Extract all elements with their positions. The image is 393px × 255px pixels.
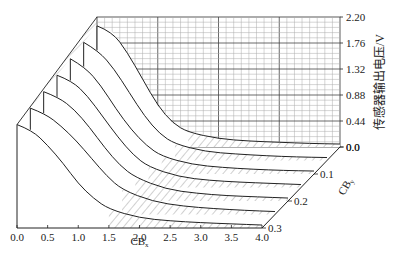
x-tick-label: 3.5: [225, 231, 239, 243]
chart-canvas: 0.00.51.01.52.02.53.03.54.0CBx0.00.440.8…: [0, 0, 393, 255]
waterfall-chart: 0.00.51.01.52.02.53.03.54.0CBx0.00.440.8…: [0, 0, 393, 255]
x-tick-label: 1.0: [71, 231, 85, 243]
x-tick-label: 0.5: [41, 231, 55, 243]
y-tick-label: 0.3: [268, 222, 282, 234]
y-tick-label: 0.1: [320, 168, 334, 180]
y-tick-label: 0.0: [346, 141, 360, 153]
x-tick-label: 1.5: [102, 231, 116, 243]
x-tick-label: 3.0: [194, 231, 208, 243]
z-tick-label: 1.32: [346, 63, 365, 75]
z-tick-label: 1.76: [346, 37, 366, 49]
y-axis-label: CBy: [335, 175, 356, 198]
y-tick-label: 0.2: [294, 195, 308, 207]
x-tick-label: 0.0: [10, 231, 24, 243]
z-tick-label: 0.44: [346, 115, 366, 127]
x-tick-label: 2.5: [163, 231, 177, 243]
z-tick-label: 0.88: [346, 89, 366, 101]
z-tick-label: 2.20: [346, 11, 366, 23]
z-axis-label: 传感器输出电压/V: [372, 34, 387, 130]
